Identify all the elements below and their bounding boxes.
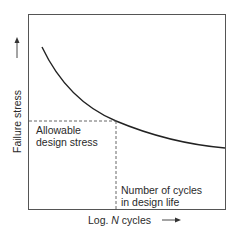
allowable-label-2: design stress bbox=[36, 136, 98, 148]
plot-frame bbox=[29, 15, 226, 210]
x-axis-label-prefix: Log. bbox=[88, 214, 111, 226]
y-arrow-icon bbox=[15, 37, 20, 43]
sn-diagram bbox=[0, 0, 236, 235]
x-arrow-icon bbox=[175, 218, 181, 223]
y-axis-label: Failure stress bbox=[11, 90, 23, 153]
x-axis-label-suffix: cycles bbox=[119, 214, 151, 226]
cycles-label-2: in design life bbox=[121, 196, 179, 208]
allowable-label-1: Allowable bbox=[36, 124, 81, 136]
x-axis-label-n: N bbox=[111, 214, 119, 226]
cycles-label-1: Number of cycles bbox=[121, 184, 202, 196]
x-axis-label: Log. N cycles bbox=[88, 214, 151, 226]
